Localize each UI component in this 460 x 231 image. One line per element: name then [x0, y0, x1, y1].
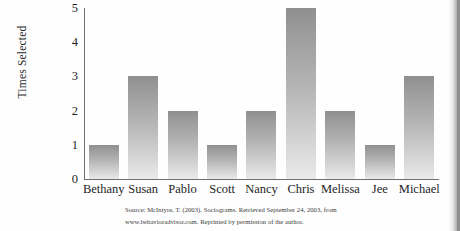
y-axis-tick-labels: 012345	[46, 8, 78, 180]
bar-susan	[128, 76, 158, 179]
x-label-nancy: Nancy	[245, 182, 278, 197]
bar-slot	[163, 8, 202, 179]
bar-slot	[84, 8, 123, 179]
x-axis-line	[84, 179, 439, 180]
y-tick-0: 0	[50, 172, 78, 187]
bar-slot	[242, 8, 281, 179]
bar-michael	[404, 76, 434, 179]
bar-jee	[365, 145, 395, 179]
x-axis-tick-labels: BethanySusanPabloScottNancyChrisMelissaJ…	[84, 182, 439, 202]
bar-slot	[400, 8, 439, 179]
y-tick-4: 4	[50, 35, 78, 50]
y-tick-1: 1	[50, 137, 78, 152]
x-label-michael: Michael	[399, 182, 440, 197]
bar-nancy	[246, 111, 276, 179]
bar-slot	[202, 8, 241, 179]
bar-melissa	[325, 111, 355, 179]
bar-slot	[360, 8, 399, 179]
bar-slot	[123, 8, 162, 179]
x-label-bethany: Bethany	[83, 182, 125, 197]
y-tick-2: 2	[50, 103, 78, 118]
bar-slot	[281, 8, 320, 179]
sociogram-bar-chart-figure: Times Selected 012345 BethanySusanPabloS…	[0, 0, 460, 231]
bar-series	[84, 8, 439, 179]
bar-pablo	[168, 111, 198, 179]
x-label-chris: Chris	[287, 182, 314, 197]
x-label-jee: Jee	[372, 182, 388, 197]
x-label-susan: Susan	[128, 182, 158, 197]
y-axis-title: Times Selected	[16, 2, 28, 122]
x-label-pablo: Pablo	[168, 182, 196, 197]
scan-page-edge-shadow	[448, 0, 460, 231]
y-tick-3: 3	[50, 69, 78, 84]
bar-slot	[321, 8, 360, 179]
x-label-scott: Scott	[209, 182, 235, 197]
caption-line-1: Source: McIntyre, T. (2003). Sociograms.…	[125, 204, 425, 216]
source-caption: Source: McIntyre, T. (2003). Sociograms.…	[125, 204, 425, 227]
bar-bethany	[89, 145, 119, 179]
y-tick-5: 5	[50, 1, 78, 16]
caption-line-2: www.behavioradvisor.com. Reprinted by pe…	[125, 216, 425, 228]
bar-chris	[286, 8, 316, 179]
bar-scott	[207, 145, 237, 179]
x-label-melissa: Melissa	[321, 182, 360, 197]
